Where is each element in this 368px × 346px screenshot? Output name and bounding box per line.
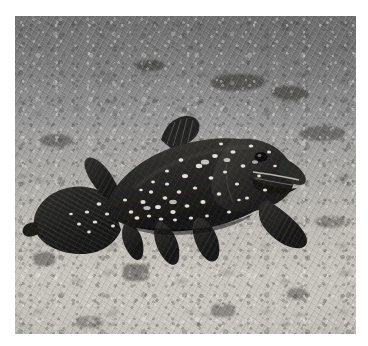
foreground-rock xyxy=(211,304,235,317)
photograph xyxy=(15,16,356,334)
foreground-rock xyxy=(33,252,55,266)
background-rock xyxy=(299,126,345,141)
photo-page: Black-and-white underwater photograph of… xyxy=(0,0,368,346)
background-rock xyxy=(135,60,165,71)
foreground-rock xyxy=(123,264,149,281)
background-rock xyxy=(315,216,345,228)
foreground-rock xyxy=(75,316,103,328)
water-haze xyxy=(15,16,356,334)
photo-border-right xyxy=(356,0,368,346)
photo-border-top xyxy=(0,0,368,16)
photo-border-left xyxy=(0,0,15,346)
background-rock xyxy=(39,134,73,147)
photo-border-bottom xyxy=(0,334,368,346)
foreground-rock xyxy=(287,288,307,300)
